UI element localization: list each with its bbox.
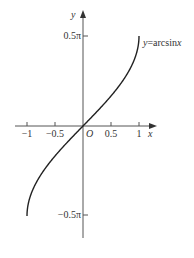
function-label-rest: =arcsin — [147, 37, 177, 48]
y-axis-arrow-icon — [80, 10, 86, 18]
y-axis-label: y — [70, 9, 76, 20]
x-tick-label: −0.5 — [46, 128, 64, 139]
x-tick-label: 0.5 — [105, 128, 118, 139]
x-tick-label: −1 — [22, 128, 33, 139]
arcsin-plot: −1 −0.5 0.5 1 O x y 0.5π −0.5π y=arcsinx — [0, 0, 194, 258]
origin-label: O — [86, 128, 93, 139]
x-axis-label: x — [147, 128, 153, 139]
function-label: y=arcsinx — [142, 37, 182, 48]
y-tick-label: 0.5π — [63, 30, 81, 41]
function-label-x: x — [176, 37, 182, 48]
x-tick-label: 1 — [137, 128, 142, 139]
y-tick-label: −0.5π — [58, 209, 81, 220]
